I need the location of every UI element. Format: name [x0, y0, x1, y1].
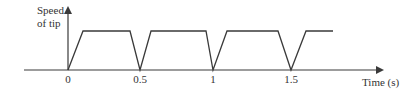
tick-label-0: 0 — [65, 73, 71, 85]
y-axis-label-line2: of tip — [37, 17, 61, 29]
y-axis-label-line1: Speed — [37, 4, 64, 16]
tick-label-0-5: 0.5 — [133, 73, 147, 85]
tick-label-1-5: 1.5 — [284, 73, 298, 85]
speed-curve — [68, 31, 333, 70]
tick-label-1: 1 — [210, 73, 216, 85]
speed-time-graph: Speed of tip 0 0.5 1 1.5 Time (s) — [0, 0, 415, 91]
x-axis-label: Time (s) — [362, 76, 400, 89]
x-axis-arrow-icon — [376, 66, 384, 74]
y-axis-arrow-icon — [64, 6, 72, 14]
